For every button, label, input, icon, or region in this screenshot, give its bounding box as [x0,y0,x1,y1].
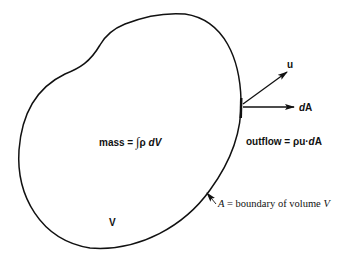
mass-equation: mass = ∫ρ dV [99,135,161,148]
label-u: u [287,60,293,70]
diagram-canvas [0,0,345,257]
label-volume-V: V [109,218,116,228]
boundary-pointer-arrow [207,193,216,204]
boundary-label: A = boundary of volume V [218,199,330,210]
volume-boundary-curve [19,14,241,249]
outflow-equation: outflow = ρu·dA [246,137,322,147]
control-volume-figure: u dA mass = ∫ρ dV outflow = ρu·dA V A = … [0,0,345,257]
label-dA: dA [299,103,312,113]
surface-element-dA [240,98,243,118]
velocity-arrow-u [243,72,287,104]
